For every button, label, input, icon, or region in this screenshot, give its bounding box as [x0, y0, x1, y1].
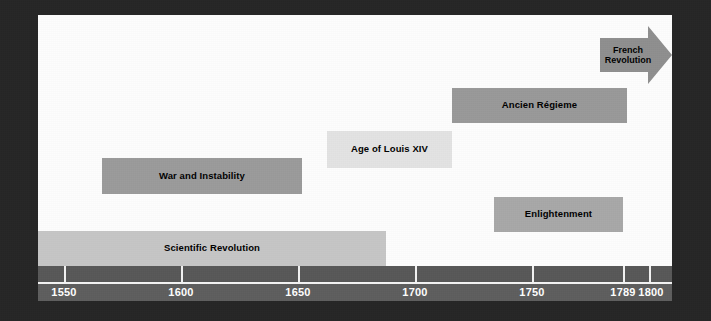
timeline-bar-war-and-instability[interactable]: War and Instability [102, 158, 302, 194]
timeline-bar-label-scientific-revolution: Scientific Revolution [164, 243, 260, 254]
timeline-arrow-label-french-revolution: French Revolution [600, 45, 672, 66]
timeline-arrow-label-line1: French [600, 45, 656, 55]
axis-tick-1600 [181, 266, 183, 283]
axis-tick-1800 [649, 266, 651, 283]
timeline-bar-label-ancien-regieme: Ancien Régieme [502, 100, 577, 111]
axis-tick-1700 [415, 266, 417, 283]
axis-tick-1750 [532, 266, 534, 283]
timeline-figure: Scientific Revolution War and Instabilit… [0, 0, 711, 321]
timeline-bar-ancien-regieme[interactable]: Ancien Régieme [452, 88, 627, 123]
timeline-bar-age-of-louis-xiv[interactable]: Age of Louis XIV [327, 131, 452, 168]
timeline-bar-enlightenment[interactable]: Enlightenment [494, 197, 623, 232]
timeline-bar-label-war-and-instability: War and Instability [159, 171, 245, 182]
timeline-bar-label-age-of-louis-xiv: Age of Louis XIV [351, 144, 428, 155]
axis-tick-1650 [298, 266, 300, 283]
timeline-arrow-label-line2: Revolution [600, 55, 656, 65]
axis-tick-label-1600: 1600 [168, 286, 193, 298]
axis-tick-1789 [623, 266, 625, 283]
axis-tick-1550 [64, 266, 66, 283]
timeline-axis-tick-band [38, 266, 672, 283]
timeline-bar-scientific-revolution[interactable]: Scientific Revolution [38, 231, 386, 266]
axis-tick-label-1750: 1750 [519, 286, 544, 298]
axis-tick-label-1550: 1550 [51, 286, 76, 298]
axis-tick-label-1700: 1700 [402, 286, 427, 298]
axis-tick-label-1650: 1650 [285, 286, 310, 298]
axis-tick-label-1789: 1789 [610, 286, 635, 298]
timeline-arrow-french-revolution[interactable]: French Revolution [600, 26, 672, 84]
axis-tick-label-1800: 1800 [638, 286, 663, 298]
timeline-axis-label-band: 1550 1600 1650 1700 1750 1789 1800 [38, 284, 672, 301]
timeline-bar-label-enlightenment: Enlightenment [525, 209, 592, 220]
